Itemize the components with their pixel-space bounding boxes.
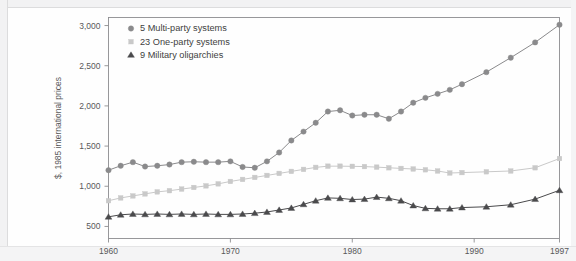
circle-marker xyxy=(191,159,196,164)
circle-marker xyxy=(459,82,464,87)
square-marker xyxy=(143,192,148,197)
circle-marker xyxy=(386,116,391,121)
circle-marker xyxy=(240,164,245,169)
square-marker xyxy=(252,175,257,180)
square-marker xyxy=(484,169,489,174)
square-marker xyxy=(338,164,343,169)
x-tick-label: 1990 xyxy=(465,246,484,256)
square-marker xyxy=(350,164,355,169)
circle-marker xyxy=(130,159,135,164)
square-marker xyxy=(508,169,513,174)
triangle-marker xyxy=(373,194,380,200)
circle-marker xyxy=(106,167,111,172)
square-marker xyxy=(301,167,306,172)
circle-marker xyxy=(142,164,147,169)
circle-marker xyxy=(203,159,208,164)
circle-marker xyxy=(423,95,428,100)
y-tick-label: 1,500 xyxy=(79,141,101,151)
square-marker xyxy=(129,39,134,44)
circle-marker xyxy=(532,40,537,45)
square-marker xyxy=(155,190,160,195)
circle-marker xyxy=(128,26,133,31)
y-tick-label: 1,000 xyxy=(79,181,101,191)
triangle-marker xyxy=(128,52,135,58)
square-marker xyxy=(374,165,379,170)
circle-marker xyxy=(411,100,416,105)
square-marker xyxy=(289,169,294,174)
y-tick-label: 2,000 xyxy=(79,101,101,111)
chart-figure: 5001,0001,5002,0002,5003,000 19601970198… xyxy=(0,0,576,261)
y-axis-title: $, 1985 international prices xyxy=(53,77,63,179)
square-marker xyxy=(533,165,538,170)
square-marker xyxy=(411,167,416,172)
circle-marker xyxy=(179,159,184,164)
circle-marker xyxy=(484,69,489,74)
circle-marker xyxy=(252,165,257,170)
x-tick-label: 1960 xyxy=(99,246,118,256)
x-tick-label: 1980 xyxy=(343,246,362,256)
legend-label: 23 One-party systems xyxy=(140,37,230,47)
square-marker xyxy=(265,173,270,178)
circle-marker xyxy=(508,55,513,60)
square-marker xyxy=(362,164,367,169)
series-line xyxy=(109,159,560,201)
series-triangle xyxy=(105,187,563,219)
square-marker xyxy=(399,166,404,171)
circle-marker xyxy=(325,109,330,114)
circle-marker xyxy=(447,87,452,92)
square-marker xyxy=(216,182,221,187)
circle-marker xyxy=(435,91,440,96)
circle-marker xyxy=(228,159,233,164)
x-tick-label: 1997 xyxy=(550,246,569,256)
x-tick-label: 1970 xyxy=(221,246,240,256)
circle-marker xyxy=(167,162,172,167)
square-marker xyxy=(131,194,136,199)
circle-marker xyxy=(313,120,318,125)
square-marker xyxy=(179,187,184,192)
square-marker xyxy=(460,170,465,175)
square-marker xyxy=(435,169,440,174)
series-line xyxy=(109,190,560,217)
triangle-marker xyxy=(410,202,417,208)
y-axis: 5001,0001,5002,0002,5003,000 xyxy=(79,21,108,232)
square-marker xyxy=(204,184,209,189)
circle-marker xyxy=(398,109,403,114)
square-marker xyxy=(228,179,233,184)
square-marker xyxy=(240,177,245,182)
circle-marker xyxy=(350,113,355,118)
chart-legend: 5 Multi-party systems23 One-party system… xyxy=(128,23,231,59)
x-axis: 19601970198019901997 xyxy=(99,239,569,256)
circle-marker xyxy=(264,159,269,164)
circle-marker xyxy=(216,159,221,164)
circle-marker xyxy=(155,163,160,168)
square-marker xyxy=(557,156,562,161)
circle-marker xyxy=(557,22,562,27)
y-tick-label: 2,500 xyxy=(79,61,101,71)
legend-label: 5 Multi-party systems xyxy=(140,23,227,33)
circle-marker xyxy=(118,163,123,168)
square-marker xyxy=(192,185,197,190)
triangle-marker xyxy=(556,187,563,193)
square-marker xyxy=(447,171,452,176)
line-chart-svg: 5001,0001,5002,0002,5003,000 19601970198… xyxy=(0,0,576,261)
square-marker xyxy=(106,198,111,203)
circle-marker xyxy=(301,129,306,134)
square-marker xyxy=(313,165,318,170)
circle-marker xyxy=(374,112,379,117)
square-marker xyxy=(167,188,172,193)
circle-marker xyxy=(337,108,342,113)
square-marker xyxy=(277,171,282,176)
square-marker xyxy=(118,196,123,201)
legend-label: 9 Military oligarchies xyxy=(140,50,224,60)
square-marker xyxy=(423,167,428,172)
square-marker xyxy=(387,165,392,170)
circle-marker xyxy=(289,138,294,143)
plot-area: 5001,0001,5002,0002,5003,000 19601970198… xyxy=(0,0,576,261)
circle-marker xyxy=(362,112,367,117)
square-marker xyxy=(326,164,331,169)
y-tick-label: 500 xyxy=(86,221,100,231)
y-tick-label: 3,000 xyxy=(79,21,101,31)
circle-marker xyxy=(276,150,281,155)
